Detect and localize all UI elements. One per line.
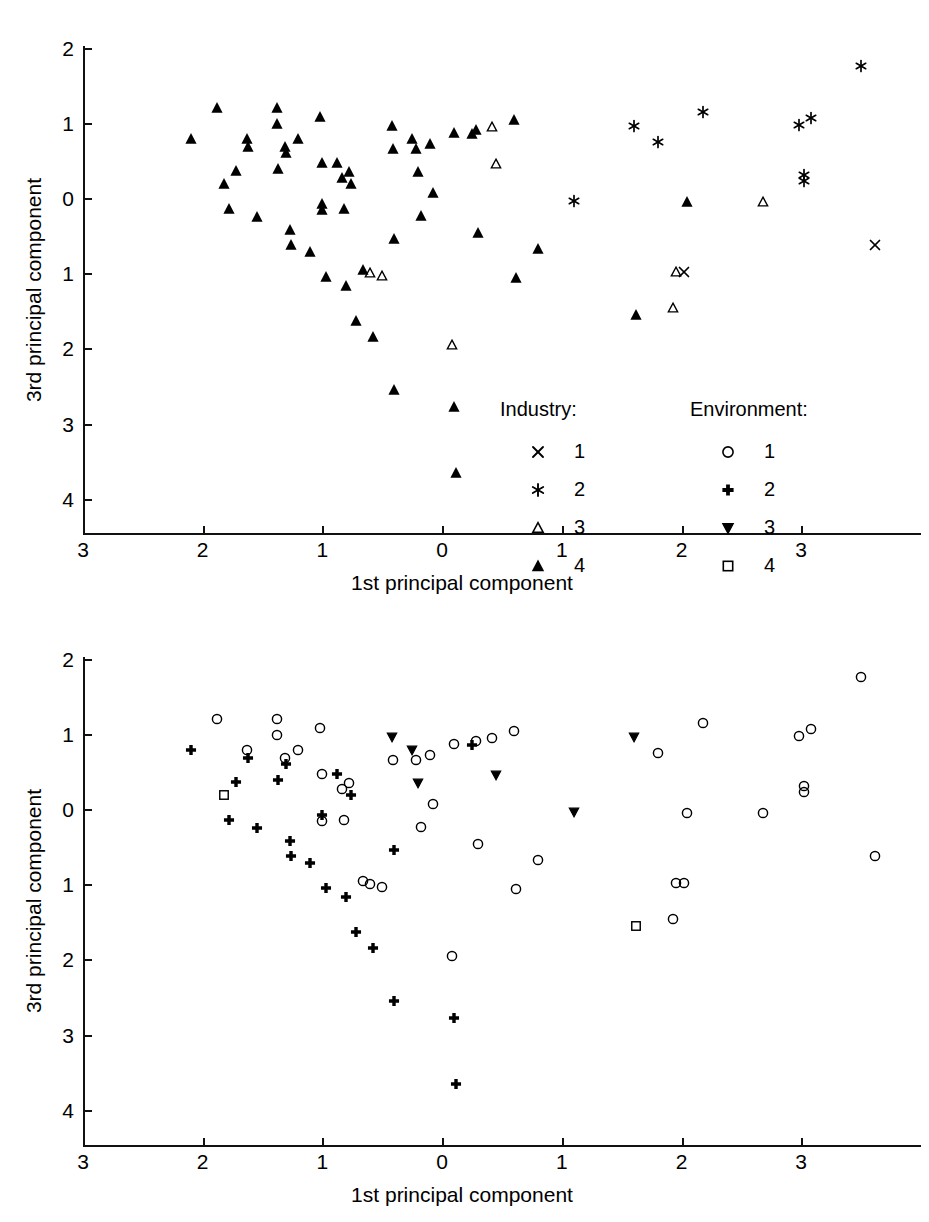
x-axis-line [83,1145,921,1147]
x-axis-tick [322,526,324,533]
filled-plus-marker [313,806,331,824]
x-axis-tick [682,1138,684,1145]
cross-x-marker [675,263,693,281]
y-axis-tick [85,884,92,886]
y-axis-line [83,657,85,1145]
x-axis-tick-label: 0 [436,539,448,560]
y-axis-tick [85,659,92,661]
filled-plus-marker [342,786,360,804]
filled-triangle-up-marker [678,193,696,211]
filled-triangle-up-marker [269,160,287,178]
x-axis-tick-label: 2 [676,539,688,560]
open-circle-marker [361,875,379,893]
x-axis-tick-label: 2 [197,539,209,560]
x-axis-tick [442,1138,444,1145]
filled-plus-marker [347,923,365,941]
legend-row: 2 [528,478,585,501]
y-axis-tick [85,499,92,501]
filled-triangle-up-marker [385,381,403,399]
filled-triangle-up-marker [447,464,465,482]
open-triangle-up-marker [487,155,505,173]
filled-plus-marker [445,1009,463,1027]
open-square-marker [627,917,645,935]
filled-plus-marker [337,888,355,906]
x-axis-line [83,533,921,535]
y-axis-tick [85,348,92,350]
x-axis-tick [203,1138,205,1145]
legend-row: 1 [718,440,775,463]
filled-triangle-up-marker [337,277,355,295]
y-axis-tick-label: 0 [62,188,74,209]
filled-triangle-up-marker [528,556,548,576]
open-square-marker [718,556,738,576]
open-circle-marker [268,726,286,744]
filled-triangle-up-marker [301,243,319,261]
filled-triangle-up-marker [208,99,226,117]
y-axis-tick-label: 2 [62,37,74,58]
open-circle-marker [354,872,372,890]
y-axis-tick [85,809,92,811]
legend-entry-label: 4 [574,554,585,577]
legend-title-environment: Environment: [690,398,808,421]
filled-plus-marker [364,939,382,957]
x-axis-tick [801,1138,803,1145]
legend-entry-label: 1 [764,440,775,463]
filled-plus-marker [220,811,238,829]
open-circle-marker [311,719,329,737]
filled-triangle-up-marker [412,207,430,225]
y-axis-tick [85,1035,92,1037]
open-triangle-down-marker [718,518,738,538]
filled-triangle-up-marker [268,115,286,133]
y-axis-tick [85,273,92,275]
legend-entry-label: 2 [574,478,585,501]
filled-triangle-up-marker [311,108,329,126]
scatter-panel-bottom: 210123432101231st principal component3rd… [0,611,929,1222]
y-axis-tick [85,734,92,736]
filled-triangle-up-marker [313,195,331,213]
filled-triangle-up-marker [313,154,331,172]
y-axis-tick-label: 3 [62,1024,74,1045]
y-axis-title: 3rd principal component [22,789,46,1013]
x-axis-tick-label: 1 [556,1151,568,1172]
x-axis-tick-label: 2 [676,1151,688,1172]
filled-triangle-up-marker [276,138,294,156]
filled-plus-marker [282,847,300,865]
legend-entry-label: 3 [764,516,775,539]
filled-triangle-up-marker [335,200,353,218]
asterisk-marker [802,109,820,127]
filled-triangle-up-marker [354,261,372,279]
filled-triangle-up-marker [445,124,463,142]
open-circle-marker [664,910,682,928]
x-axis-tick-label: 0 [436,1151,448,1172]
x-axis-tick-label: 3 [795,1151,807,1172]
legend-row: 3 [718,516,775,539]
open-circle-marker [467,732,485,750]
y-axis-tick-label: 3 [62,413,74,434]
filled-plus-marker [463,736,481,754]
open-circle-marker [340,774,358,792]
open-circle-marker [421,746,439,764]
filled-triangle-up-marker [409,163,427,181]
open-circle-marker [795,783,813,801]
filled-triangle-up-marker [289,130,307,148]
filled-triangle-up-marker [385,230,403,248]
open-triangle-up-marker [754,193,772,211]
y-axis-tick [85,123,92,125]
asterisk-marker [694,103,712,121]
filled-plus-marker [328,765,346,783]
x-axis-tick-label: 2 [197,1151,209,1172]
filled-plus-marker [269,771,287,789]
filled-triangle-up-marker [268,99,286,117]
open-circle-marker [424,795,442,813]
open-circle-marker [483,729,501,747]
open-circle-marker [268,710,286,728]
filled-triangle-up-marker [467,121,485,139]
y-axis-tick [85,1110,92,1112]
y-axis-tick-label: 1 [62,723,74,744]
open-circle-marker [795,777,813,795]
open-triangle-down-marker [383,728,401,746]
y-axis-tick-label: 2 [62,648,74,669]
filled-triangle-up-marker [627,306,645,324]
open-circle-marker [289,741,307,759]
filled-triangle-up-marker [333,169,351,187]
